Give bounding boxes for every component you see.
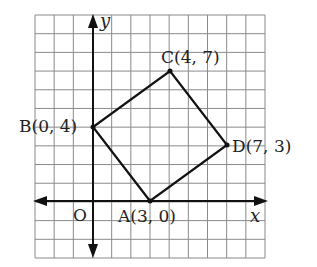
quadrilateral-abcd bbox=[93, 71, 227, 201]
point-a bbox=[148, 199, 153, 204]
y-axis bbox=[88, 14, 98, 258]
label-b: B(0, 4) bbox=[19, 116, 77, 136]
coordinate-diagram: y x O A(3, 0) B(0, 4) C(4, 7) D(7, 3) bbox=[0, 0, 317, 267]
point-b bbox=[91, 125, 96, 130]
point-c bbox=[168, 69, 173, 74]
label-a: A(3, 0) bbox=[117, 206, 176, 226]
y-axis-arrow-up-icon bbox=[88, 14, 98, 28]
origin-label: O bbox=[73, 205, 87, 225]
y-axis-arrow-down-icon bbox=[88, 244, 98, 258]
y-axis-label: y bbox=[99, 10, 111, 31]
label-d: D(7, 3) bbox=[232, 136, 291, 156]
label-c: C(4, 7) bbox=[161, 47, 220, 67]
point-d bbox=[225, 143, 230, 148]
x-axis-label: x bbox=[250, 205, 260, 226]
